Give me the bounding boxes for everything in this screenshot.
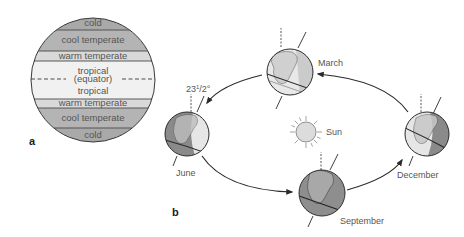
orbit-arrow-september-to-december	[347, 160, 402, 190]
sun: Sun	[290, 116, 342, 148]
axis-south	[409, 156, 413, 166]
globe-june: June 231/2°	[165, 84, 211, 178]
axis-south	[276, 96, 282, 109]
globe-march: March	[267, 28, 343, 109]
axis-south	[308, 216, 313, 227]
band-label-tropical-north: tropical	[78, 65, 109, 76]
axis-north	[298, 32, 306, 48]
sun-label: Sun	[326, 127, 342, 137]
axis-north	[433, 97, 441, 114]
month-label-december: December	[397, 170, 439, 180]
month-label-june: June	[176, 168, 196, 178]
axis-north	[197, 96, 204, 112]
tilt-angle-label: 231/2°	[186, 84, 211, 94]
band-label-warm-temperate-south: warm temperate	[58, 97, 128, 108]
globe-september: September	[299, 152, 384, 227]
orbit-arrow-december-to-march	[318, 74, 408, 112]
month-label-september: September	[340, 216, 384, 226]
band-label-cool-temperate-south: cool temperate	[62, 112, 125, 123]
band-label-tropical-south: tropical	[78, 85, 109, 96]
tilt-angle-fraction: /2°	[199, 84, 211, 94]
band-label-cold-south: cold	[84, 129, 101, 140]
globe-december: December	[397, 94, 449, 180]
tilt-angle-value: 23	[186, 84, 196, 94]
sun-disc-icon	[296, 122, 316, 142]
band-label-warm-temperate-north: warm temperate	[58, 50, 128, 61]
panel-a-label: a	[29, 135, 36, 147]
band-label-cool-temperate-north: cool temperate	[62, 34, 125, 45]
band-label-cold-north: cold	[84, 17, 101, 28]
orbit-arrow-june-to-september	[202, 156, 292, 192]
month-label-march: March	[318, 58, 343, 68]
axis-south	[173, 156, 177, 166]
climate-seasons-figure: (equator) coldcool temperatewarm tempera…	[0, 0, 464, 237]
climate-zone-disc: (equator) coldcool temperatewarm tempera…	[25, 10, 165, 150]
orbit-arrow-march-to-june	[207, 75, 262, 103]
panel-b-label: b	[172, 206, 179, 218]
axis-north	[330, 154, 338, 170]
